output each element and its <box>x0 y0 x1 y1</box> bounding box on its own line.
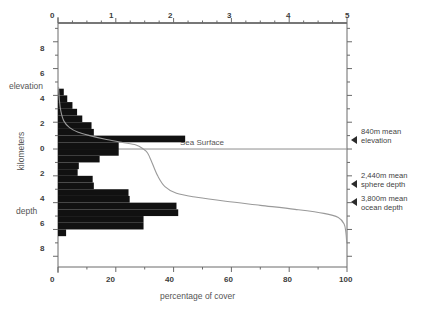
histogram-bar <box>58 176 93 183</box>
histogram-bar <box>58 189 129 196</box>
histogram-bar <box>58 156 100 163</box>
histogram-bar <box>58 203 176 210</box>
plot-area <box>0 0 424 318</box>
histogram-bar <box>58 149 119 156</box>
histogram-bar <box>58 169 78 176</box>
histogram-bar <box>58 216 144 223</box>
histogram-bar <box>58 162 79 169</box>
histogram-bar <box>58 183 94 190</box>
histogram-bar <box>58 122 92 129</box>
histogram-bar <box>58 223 144 230</box>
hypsometric-chart: 0 1 2 3 4 5 0 20 40 60 80 100 8 6 4 2 0 … <box>0 0 424 318</box>
histogram-bar <box>58 136 185 143</box>
histogram-bar <box>58 129 94 136</box>
histogram-bar <box>58 142 119 149</box>
histogram-bar <box>58 196 130 203</box>
histogram-bar <box>58 229 66 236</box>
histogram-bar <box>58 209 178 216</box>
